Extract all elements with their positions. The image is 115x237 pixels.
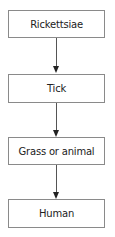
node-label: Grass or animal (19, 146, 95, 157)
node-label: Rickettsiae (30, 19, 83, 30)
node-rickettsiae: Rickettsiae (8, 10, 105, 38)
node-label: Human (39, 208, 74, 219)
arrow-down-icon (53, 130, 59, 137)
connector-line (56, 103, 57, 130)
connector-line (56, 165, 57, 192)
node-human: Human (8, 199, 105, 228)
node-grass-or-animal: Grass or animal (8, 137, 105, 165)
node-label: Tick (47, 83, 66, 94)
node-tick: Tick (8, 74, 105, 103)
arrow-down-icon (53, 66, 59, 73)
connector-line (56, 38, 57, 66)
arrow-down-icon (53, 192, 59, 199)
